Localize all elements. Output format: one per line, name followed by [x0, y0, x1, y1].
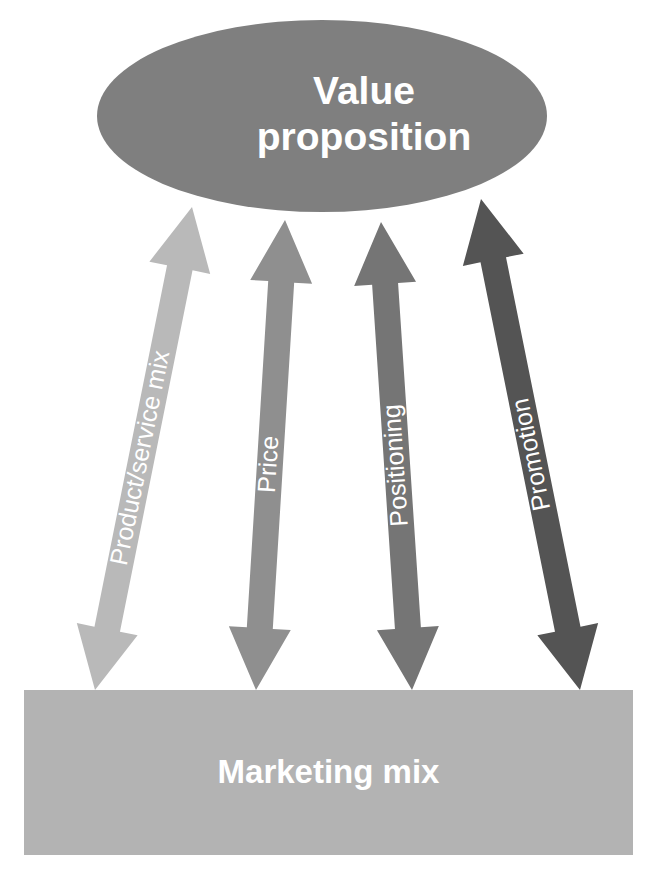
diagram-canvas: Marketing mix Product/service mixPricePo…: [0, 0, 656, 883]
marketing-mix-label: Marketing mix: [218, 753, 441, 790]
connector-label: Price: [252, 435, 283, 494]
node-marketing-mix[interactable]: Marketing mix: [24, 690, 633, 855]
value-proposition-label-line2: proposition: [257, 115, 471, 158]
diagram-root: Marketing mix Product/service mixPricePo…: [0, 0, 656, 883]
value-proposition-label-line1: Value: [313, 69, 415, 112]
node-value-proposition[interactable]: Value proposition: [97, 20, 547, 212]
